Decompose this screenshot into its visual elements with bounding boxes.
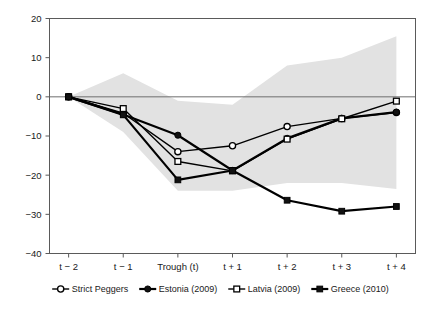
marker-filled-square [284, 197, 290, 203]
x-tick-label: t + 2 [278, 261, 297, 272]
marker-open-square [339, 116, 345, 122]
marker-open-circle [175, 149, 181, 155]
y-tick-label: 20 [31, 13, 42, 24]
marker-open-square [120, 106, 126, 112]
marker-open-square [393, 98, 399, 104]
marker-filled-square [393, 204, 399, 210]
marker-open-circle [229, 143, 235, 149]
marker-filled-square [317, 286, 323, 292]
y-tick-label: −30 [25, 209, 41, 220]
marker-open-circle [284, 124, 290, 130]
x-tick-label: t − 1 [114, 261, 133, 272]
chart-figure: 20100−10−20−30−40 t − 2t − 1Trough (t)t … [0, 0, 441, 310]
x-tick-label: t + 3 [332, 261, 351, 272]
marker-open-circle [58, 286, 64, 292]
x-tick-label: t + 1 [223, 261, 242, 272]
x-tick-label: Trough (t) [157, 261, 198, 272]
y-tick-label: −10 [25, 130, 41, 141]
marker-filled-square [230, 168, 236, 174]
x-tick-label: t − 2 [59, 261, 78, 272]
marker-filled-circle [175, 132, 181, 138]
marker-filled-square [66, 94, 72, 100]
y-tick-label: −20 [25, 170, 41, 181]
marker-open-square [175, 159, 181, 165]
legend-label: Greece (2010) [331, 284, 389, 294]
y-tick-label: 0 [36, 91, 41, 102]
marker-open-square [284, 136, 290, 142]
marker-open-square [234, 286, 240, 292]
marker-filled-square [175, 177, 181, 183]
line-chart: 20100−10−20−30−40 t − 2t − 1Trough (t)t … [0, 0, 441, 310]
legend-label: Latvia (2009) [248, 284, 301, 294]
legend-label: Estonia (2009) [159, 284, 218, 294]
marker-filled-circle [145, 286, 151, 292]
legend-label: Strict Peggers [72, 284, 129, 294]
marker-filled-square [120, 112, 126, 118]
marker-filled-circle [393, 109, 399, 115]
y-tick-label: −40 [25, 248, 41, 259]
x-tick-label: t + 4 [387, 261, 406, 272]
y-tick-label: 10 [31, 52, 42, 63]
marker-filled-square [339, 208, 345, 214]
